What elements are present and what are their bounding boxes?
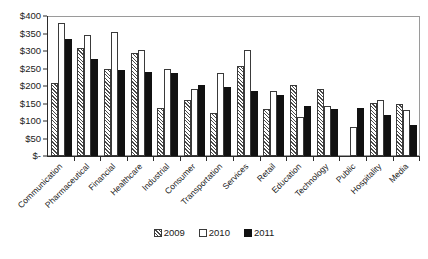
bar-chart: $400$350$300$250$200$150$100$50$- Commun…: [0, 0, 428, 259]
y-axis-tick-label: $300: [20, 46, 41, 56]
bar-2009: [51, 83, 58, 156]
bar-2010: [297, 117, 304, 156]
bar-2011: [277, 95, 284, 156]
y-axis-tick-mark: [43, 68, 47, 69]
bar-group: [48, 16, 75, 156]
legend-item-2011[interactable]: 2011: [244, 228, 274, 238]
legend-swatch-icon: [154, 229, 162, 237]
bar-2011: [224, 87, 231, 156]
y-axis-tick-label: $50: [25, 134, 41, 144]
legend-swatch-icon: [199, 229, 207, 237]
legend-label: 2009: [164, 228, 185, 238]
y-axis-tick-mark: [43, 16, 47, 17]
legend-swatch-icon: [244, 229, 252, 237]
bar-2011: [118, 70, 125, 156]
y-axis-tick-label: $150: [20, 99, 41, 109]
y-axis-tick-mark: [43, 138, 47, 139]
y-axis-tick-mark: [43, 86, 47, 87]
bar-2011: [198, 85, 205, 156]
bar-group: [314, 16, 341, 156]
y-axis-tick-mark: [43, 103, 47, 104]
x-axis-label-cell: Transportation: [207, 161, 234, 221]
legend-label: 2011: [254, 228, 274, 238]
x-axis-label-cell: Media: [394, 161, 421, 221]
bar-group: [261, 16, 288, 156]
y-axis-tick-label: $200: [20, 81, 41, 91]
bar-2009: [290, 85, 297, 156]
y-axis-tick-mark: [43, 51, 47, 52]
bar-2010: [58, 23, 65, 156]
x-axis-label-cell: Healthcare: [128, 161, 155, 221]
bar-2011: [91, 59, 98, 156]
bar-group: [367, 16, 394, 156]
bar-group: [128, 16, 155, 156]
y-axis-tick-mark: [43, 156, 47, 157]
bar-group: [394, 16, 421, 156]
y-axis-tick-label: $-: [33, 151, 41, 161]
bar-2010: [324, 106, 331, 156]
y-axis-tick-label: $250: [20, 64, 41, 74]
legend-item-2010[interactable]: 2010: [199, 228, 230, 238]
x-axis-label-cell: Technology: [314, 161, 341, 221]
bar-2010: [377, 100, 384, 156]
x-axis-label-cell: Services: [234, 161, 261, 221]
bar-2011: [171, 73, 178, 156]
bar-2009: [370, 103, 377, 156]
plot-area: [48, 16, 420, 156]
x-axis-label-cell: Pharmaceutical: [75, 161, 102, 221]
y-axis: $400$350$300$250$200$150$100$50$-: [0, 16, 47, 157]
legend-item-2009[interactable]: 2009: [154, 228, 185, 238]
legend-label: 2010: [209, 228, 230, 238]
y-axis-tick-mark: [43, 33, 47, 34]
bar-2011: [65, 39, 72, 156]
x-axis-label-cell: Hospitality: [367, 161, 394, 221]
bar-2011: [145, 72, 152, 156]
bar-group: [287, 16, 314, 156]
y-axis-tick-mark: [43, 121, 47, 122]
x-axis-labels: CommunicationPharmaceuticalFinancialHeal…: [48, 161, 420, 221]
y-axis-tick-label: $400: [20, 11, 41, 21]
bar-group: [181, 16, 208, 156]
y-axis-tick-label: $350: [20, 29, 41, 39]
bar-group: [207, 16, 234, 156]
y-axis-tick-label: $100: [20, 116, 41, 126]
bar-2010: [138, 50, 145, 156]
chart-legend: 200920102011: [0, 228, 428, 238]
